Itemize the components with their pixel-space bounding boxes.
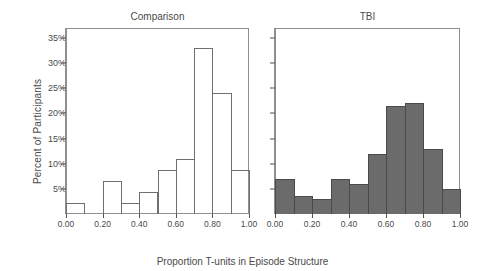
histogram-bar xyxy=(442,189,462,214)
histogram-bar xyxy=(66,203,85,214)
panel-tbi-bars xyxy=(275,28,460,214)
histogram-bar xyxy=(121,203,140,214)
histogram-bar xyxy=(139,192,158,214)
x-tick-label: 1.00 xyxy=(241,219,258,229)
x-tick-mark xyxy=(460,214,461,218)
x-tick-mark xyxy=(275,214,276,218)
x-tick-label: 0.00 xyxy=(267,219,284,229)
panel-comparison: Comparison 0.000.200.400.600.801.00 xyxy=(66,28,249,214)
histogram-bar xyxy=(212,93,231,214)
histogram-bar xyxy=(194,48,213,214)
panel-tbi-x-axis: 0.000.200.400.600.801.00 xyxy=(275,214,460,234)
x-tick-mark xyxy=(66,214,67,218)
histogram-bar xyxy=(158,170,177,214)
x-tick-mark xyxy=(386,214,387,218)
histogram-bar xyxy=(103,181,122,214)
x-tick-label: 0.60 xyxy=(168,219,185,229)
histogram-bar xyxy=(294,196,314,214)
panel-comparison-x-axis: 0.000.200.400.600.801.00 xyxy=(66,214,249,234)
panel-tbi: TBI 0.000.200.400.600.801.00 xyxy=(275,28,460,214)
x-tick-label: 0.20 xyxy=(94,219,111,229)
x-tick-mark xyxy=(349,214,350,218)
histogram-bar xyxy=(386,106,406,214)
x-tick-mark xyxy=(423,214,424,218)
histogram-bar xyxy=(405,103,425,214)
panel-tbi-title: TBI xyxy=(275,11,460,22)
histogram-bar xyxy=(231,170,250,214)
x-tick-label: 0.60 xyxy=(378,219,395,229)
x-tick-label: 0.00 xyxy=(58,219,75,229)
x-axis-title: Proportion T-units in Episode Structure xyxy=(0,256,485,267)
x-tick-mark xyxy=(249,214,250,218)
x-tick-label: 0.80 xyxy=(204,219,221,229)
x-tick-mark xyxy=(312,214,313,218)
x-tick-label: 0.80 xyxy=(415,219,432,229)
x-tick-mark xyxy=(176,214,177,218)
x-tick-label: 0.20 xyxy=(304,219,321,229)
x-tick-label: 1.00 xyxy=(452,219,469,229)
histogram-bar xyxy=(349,184,369,214)
panel-comparison-title: Comparison xyxy=(66,11,249,22)
x-tick-mark xyxy=(103,214,104,218)
x-tick-label: 0.40 xyxy=(131,219,148,229)
histogram-figure: Percent of Participants 5%10%15%20%25%30… xyxy=(0,0,485,271)
histogram-bar xyxy=(176,159,195,214)
histogram-bar xyxy=(331,179,351,214)
histogram-bar xyxy=(423,149,443,214)
x-tick-mark xyxy=(212,214,213,218)
histogram-bar xyxy=(275,179,295,214)
histogram-bar xyxy=(368,154,388,214)
panel-comparison-bars xyxy=(66,28,249,214)
histogram-bar xyxy=(312,199,332,214)
x-tick-label: 0.40 xyxy=(341,219,358,229)
x-tick-mark xyxy=(139,214,140,218)
